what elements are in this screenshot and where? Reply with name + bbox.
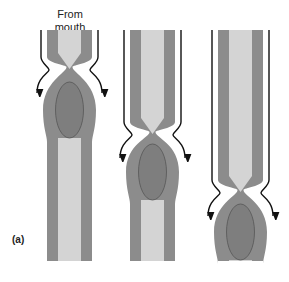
bolus [227, 204, 255, 260]
esophagus-stages [0, 0, 289, 282]
lumen-upper [141, 30, 164, 134]
stage-1 [37, 30, 102, 261]
lumen-lower [58, 138, 81, 261]
bolus [56, 82, 84, 138]
lumen-lower [141, 200, 164, 261]
stage-3 [208, 30, 273, 264]
bolus [139, 144, 167, 200]
lumen-upper [229, 30, 252, 192]
stage-2 [120, 30, 185, 261]
peristalsis-diagram: From mouth (a) [0, 0, 289, 282]
